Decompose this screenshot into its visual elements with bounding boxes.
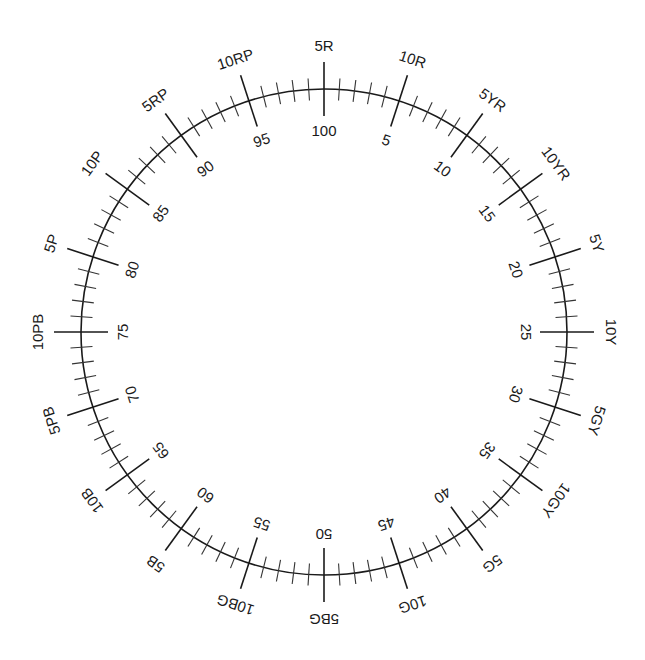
minor-tick xyxy=(520,196,539,208)
hue-number-label: 95 xyxy=(251,129,272,150)
minor-tick xyxy=(534,224,554,233)
minor-tick xyxy=(520,456,539,468)
minor-tick xyxy=(71,316,93,317)
hue-number-label: 45 xyxy=(376,513,397,534)
minor-tick xyxy=(162,511,176,528)
major-tick xyxy=(106,459,150,491)
minor-tick xyxy=(556,347,578,348)
hue-label: 10YR xyxy=(538,143,574,183)
minor-tick xyxy=(409,548,417,568)
minor-tick xyxy=(88,239,108,247)
minor-tick xyxy=(556,316,578,317)
minor-tick xyxy=(231,96,239,116)
hue-label: 10GY xyxy=(538,480,574,521)
major-tick xyxy=(241,537,258,588)
major-tick xyxy=(529,399,580,416)
minor-tick xyxy=(423,102,432,122)
minor-tick xyxy=(472,136,486,153)
major-tick xyxy=(499,459,543,491)
major-tick xyxy=(165,114,197,158)
hue-circle-ring xyxy=(81,89,567,575)
minor-tick xyxy=(128,170,145,184)
hue-number-label: 15 xyxy=(476,202,500,225)
minor-tick xyxy=(94,431,114,440)
hue-number-label: 100 xyxy=(311,122,336,139)
hue-label: 5GY xyxy=(584,404,609,438)
minor-tick xyxy=(188,528,200,547)
hue-number-label: 60 xyxy=(194,484,217,508)
hue-label: 10Y xyxy=(603,319,620,346)
hue-label: 5B xyxy=(143,552,168,577)
hue-number-label: 80 xyxy=(121,259,142,280)
minor-tick xyxy=(162,136,176,153)
minor-tick xyxy=(409,96,417,116)
minor-tick xyxy=(339,79,340,101)
minor-tick xyxy=(110,196,129,208)
minor-tick xyxy=(527,210,546,221)
number-labels-group: 5101520253035404550556065707580859095100 xyxy=(114,122,535,543)
minor-tick xyxy=(472,511,486,528)
munsell-hue-dial: 5R10R5YR10YR5Y10Y5GY10GY5G10G5BG10BG5B10… xyxy=(0,0,645,660)
hue-number-label: 25 xyxy=(518,324,535,341)
minor-tick xyxy=(94,224,114,233)
hue-label: 10PB xyxy=(29,314,46,351)
hue-label: 5YR xyxy=(476,84,510,115)
hue-number-label: 35 xyxy=(476,439,500,462)
hue-label: 10B xyxy=(77,485,106,517)
hue-number-label: 10 xyxy=(431,157,454,181)
hue-number-label: 5 xyxy=(380,131,393,150)
hue-label: 5RP xyxy=(139,84,173,115)
hue-number-label: 30 xyxy=(505,384,526,405)
minor-tick xyxy=(128,480,145,494)
major-tick xyxy=(67,249,118,266)
hue-label: 10R xyxy=(397,47,429,72)
hue-label: 5G xyxy=(480,551,506,577)
minor-tick xyxy=(534,431,554,440)
hue-number-label: 65 xyxy=(149,439,173,462)
minor-tick xyxy=(448,528,460,547)
minor-tick xyxy=(436,109,447,128)
minor-tick xyxy=(101,444,120,455)
hue-number-label: 20 xyxy=(505,259,526,280)
major-tick xyxy=(391,75,408,126)
minor-tick xyxy=(231,548,239,568)
minor-tick xyxy=(503,170,520,184)
minor-tick xyxy=(110,456,129,468)
major-tick xyxy=(499,173,543,205)
minor-tick xyxy=(88,417,108,425)
minor-tick xyxy=(436,535,447,554)
minor-tick xyxy=(448,118,460,137)
major-tick xyxy=(451,114,483,158)
hue-label: 5R xyxy=(314,37,333,54)
hue-number-label: 55 xyxy=(251,513,272,534)
major-tick xyxy=(241,75,258,126)
hue-number-label: 50 xyxy=(316,526,333,543)
hue-number-label: 75 xyxy=(114,324,131,341)
hue-number-label: 40 xyxy=(431,484,454,508)
minor-tick xyxy=(202,109,213,128)
minor-tick xyxy=(71,347,93,348)
major-tick xyxy=(165,507,197,551)
minor-tick xyxy=(527,444,546,455)
minor-tick xyxy=(540,239,560,247)
minor-tick xyxy=(540,417,560,425)
hue-label: 5BG xyxy=(309,611,339,628)
minor-ticks-group xyxy=(71,79,578,586)
minor-tick xyxy=(216,542,225,562)
hue-number-label: 85 xyxy=(149,202,173,225)
minor-tick xyxy=(101,210,120,221)
major-tick xyxy=(529,249,580,266)
minor-tick xyxy=(202,535,213,554)
hue-label: 10RP xyxy=(215,45,256,73)
hue-number-label: 70 xyxy=(121,384,142,405)
hue-number-label: 90 xyxy=(194,157,217,181)
hue-label: 5Y xyxy=(586,232,608,255)
hue-label: 5PB xyxy=(39,405,64,437)
minor-tick xyxy=(503,480,520,494)
major-tick xyxy=(106,173,150,205)
minor-tick xyxy=(308,564,309,586)
major-tick xyxy=(391,537,408,588)
minor-tick xyxy=(216,102,225,122)
minor-tick xyxy=(339,564,340,586)
minor-tick xyxy=(308,79,309,101)
